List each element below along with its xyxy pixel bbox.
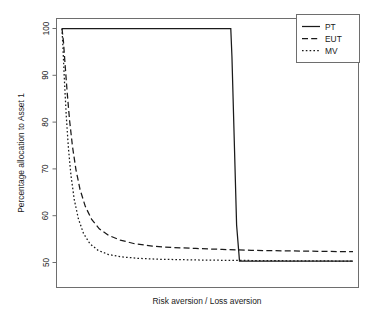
y-tick-label: 70 [42, 164, 51, 174]
legend: PT EUT MV [297, 15, 360, 63]
y-tick-label: 100 [42, 21, 51, 35]
chart-figure: 100 90 80 70 60 50 Percentage allocation… [0, 0, 371, 316]
y-tick-label: 80 [42, 117, 51, 127]
y-tick-label: 60 [42, 211, 51, 221]
y-tick-label: 90 [42, 70, 51, 80]
line-chart: 100 90 80 70 60 50 Percentage allocation… [0, 0, 371, 316]
series-line-pt [62, 29, 353, 262]
legend-label-mv: MV [325, 46, 338, 56]
x-axis-title: Risk aversion / Loss aversion [153, 296, 262, 306]
y-tick-label: 50 [42, 258, 51, 268]
legend-label-pt: PT [325, 22, 336, 32]
y-axis-title: Percentage allocation to Asset 1 [16, 93, 26, 213]
legend-label-eut: EUT [325, 34, 342, 44]
y-axis-tick-labels: 100 90 80 70 60 50 [42, 21, 51, 267]
y-axis-ticks [53, 29, 57, 263]
series-line-mv [62, 29, 353, 262]
